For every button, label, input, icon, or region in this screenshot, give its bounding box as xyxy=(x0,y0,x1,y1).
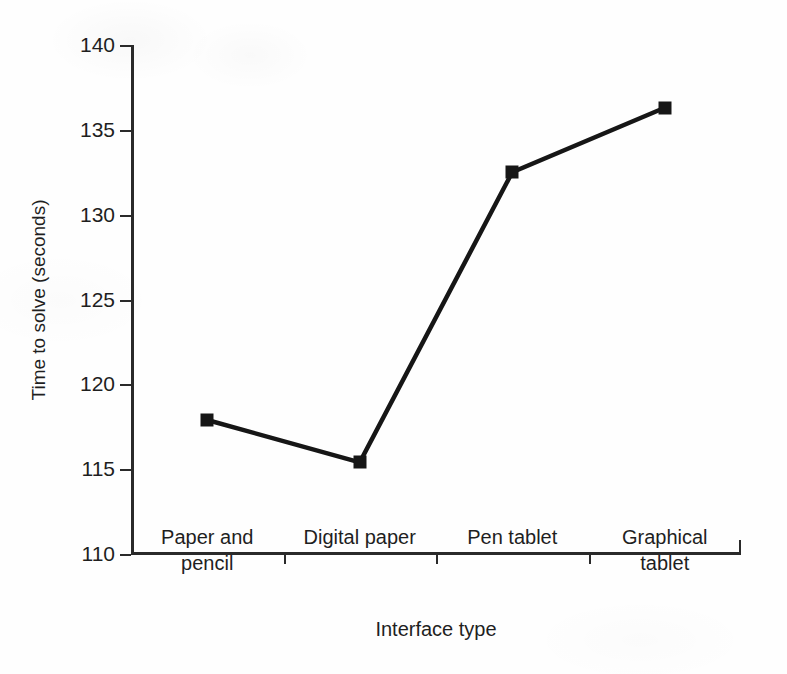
x-category-label-line: pencil xyxy=(131,550,284,576)
y-tick-mark xyxy=(120,215,131,217)
y-axis-title-text: Time to solve (seconds) xyxy=(28,200,50,401)
x-category-label-line: Digital paper xyxy=(284,524,437,550)
x-category-label: Paper andpencil xyxy=(131,524,284,576)
y-tick-mark xyxy=(120,469,131,471)
y-tick-mark xyxy=(120,130,131,132)
y-tick-label: 130 xyxy=(80,203,115,227)
x-category-label-line: tablet xyxy=(589,550,742,576)
y-tick-label: 120 xyxy=(80,372,115,396)
y-tick-mark xyxy=(120,384,131,386)
y-tick-label: 115 xyxy=(82,457,115,481)
plot-area: 140135130125120115110 xyxy=(131,45,741,554)
data-point-marker[interactable] xyxy=(201,413,214,426)
y-tick-label: 125 xyxy=(80,288,115,312)
data-point-marker[interactable] xyxy=(353,456,366,469)
data-point-marker[interactable] xyxy=(658,101,671,114)
x-category-label-line: Graphical xyxy=(589,524,742,550)
x-category-label: Pen tablet xyxy=(436,524,589,550)
x-category-label-line: Pen tablet xyxy=(436,524,589,550)
x-axis-title: Interface type xyxy=(131,618,741,641)
data-point-marker[interactable] xyxy=(506,166,519,179)
x-category-label: Digital paper xyxy=(284,524,437,550)
series-line xyxy=(131,45,741,554)
y-tick-label: 140 xyxy=(80,33,115,57)
y-tick-mark xyxy=(120,45,131,47)
y-tick-mark xyxy=(120,554,131,556)
x-category-label-line: Paper and xyxy=(131,524,284,550)
figure-canvas: Time to solve (seconds) 1401351301251201… xyxy=(0,0,787,674)
y-tick-mark xyxy=(120,300,131,302)
y-tick-label: 135 xyxy=(80,118,115,142)
y-tick-label: 110 xyxy=(82,542,115,566)
y-axis-title: Time to solve (seconds) xyxy=(22,45,56,555)
x-category-label: Graphicaltablet xyxy=(589,524,742,576)
